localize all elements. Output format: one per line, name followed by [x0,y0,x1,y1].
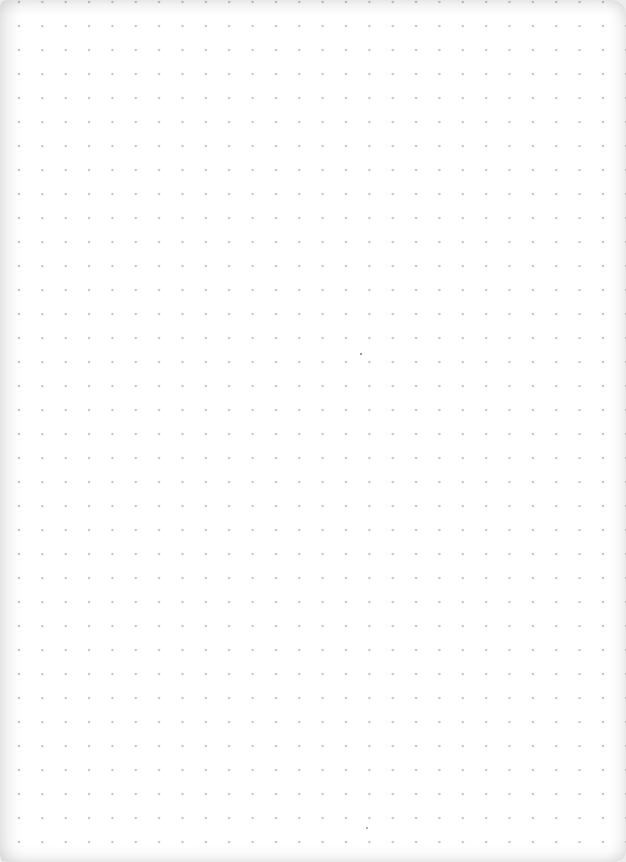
ink-speck [366,827,368,829]
ink-speck [360,353,362,355]
dot-grid-paper [0,0,626,862]
